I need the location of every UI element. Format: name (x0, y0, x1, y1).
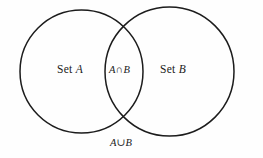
label-intersection: A∩B (109, 65, 130, 76)
label-set-a-prefix: Set (57, 63, 76, 75)
label-set-a: Set A (57, 64, 83, 76)
label-union: A∪B (110, 138, 132, 149)
label-set-a-variable: A (76, 63, 83, 75)
venn-diagram-figure: Set A A∩B Set B A∪B (0, 0, 263, 158)
venn-diagram-canvas (0, 0, 263, 158)
label-set-b-prefix: Set (160, 63, 179, 75)
label-set-b-variable: B (179, 63, 186, 75)
label-set-b: Set B (160, 64, 186, 76)
